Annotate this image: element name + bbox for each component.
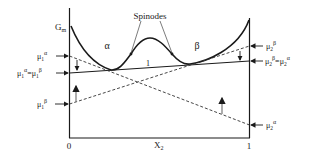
mu2-beta-label: μ2β	[266, 40, 276, 52]
beta-tangent-dashed	[70, 46, 250, 104]
y-axis-label: Gm	[55, 22, 67, 33]
spinode-point-left	[130, 53, 133, 56]
mu2-equal-label: μ2β=μ2α	[265, 55, 291, 67]
mu2-alpha-label: μ2α	[266, 119, 277, 131]
x-axis-label: X2	[154, 140, 164, 151]
alpha-phase-label: α	[104, 40, 110, 51]
spinodes-label: Spinodes	[133, 11, 167, 21]
spinode-pointer-left	[131, 21, 141, 53]
axes	[69, 8, 250, 138]
x-min-label: 0	[67, 141, 72, 151]
mu1-alpha-label: μ1α	[37, 50, 48, 62]
beta-phase-label: β	[194, 40, 199, 51]
free-energy-diagram: Gm Spinodes α β 1 μ1α μ1α=μ1β μ1β μ2β μ2…	[0, 0, 314, 154]
mu1-equal-label: μ1α=μ1β	[17, 67, 42, 79]
spinode-point-right	[171, 53, 174, 56]
alpha-tangent-dashed	[70, 56, 250, 125]
x-max-label: 1	[247, 141, 252, 151]
mu1-beta-label: μ1β	[37, 98, 47, 110]
tangent-label: 1	[146, 59, 150, 68]
